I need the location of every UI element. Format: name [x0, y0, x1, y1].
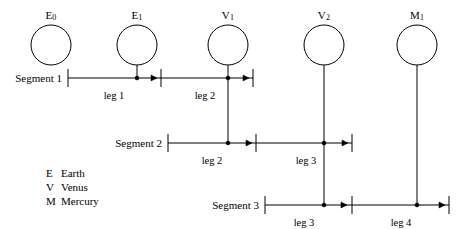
segment-1-arrowhead-1 — [243, 75, 249, 81]
node-label-E0: E0 — [45, 9, 56, 21]
segment-3-label: Segment 3 — [0, 199, 263, 211]
node-label-subscript: 1 — [420, 13, 424, 22]
trajectory-diagram: E0E1V1V2M1Segment 1leg 1leg 2Segment 2le… — [0, 0, 468, 229]
legend-key: M — [46, 194, 61, 208]
segment-3-leg-label-0: leg 3 — [294, 217, 315, 228]
node-label-V2: V2 — [318, 9, 330, 21]
node-label-E1: E1 — [131, 9, 142, 21]
segment-1-node-dot-1 — [226, 76, 230, 80]
legend-item-m: MMercury — [46, 194, 99, 208]
segment-3-leg-label-1: leg 4 — [391, 217, 412, 228]
segment-3-node-dot-1 — [415, 203, 419, 207]
segment-3-node-dot-0 — [322, 203, 326, 207]
planet-circle-M1 — [397, 25, 437, 65]
segment-2-arrowhead-1 — [342, 140, 348, 146]
legend-name: Venus — [61, 180, 88, 194]
node-label-letter: E — [45, 9, 52, 21]
segment-1-label: Segment 1 — [0, 72, 66, 84]
segment-1-leg-label-0: leg 1 — [104, 90, 125, 101]
segment-1-leg-label-1: leg 2 — [195, 90, 216, 101]
segment-2-node-dot-1 — [322, 141, 326, 145]
node-label-subscript: 2 — [326, 13, 330, 22]
segment-2-arrowhead-0 — [246, 140, 252, 146]
node-label-letter: E — [131, 9, 138, 21]
legend-name: Mercury — [61, 194, 99, 208]
segment-1-arrowhead-0 — [151, 75, 157, 81]
node-label-subscript: 1 — [230, 13, 234, 22]
legend-key: E — [46, 166, 61, 180]
segment-2-leg-label-1: leg 3 — [296, 155, 317, 166]
node-label-letter: M — [410, 9, 420, 21]
planet-circle-E1 — [117, 25, 157, 65]
node-label-subscript: 1 — [138, 13, 142, 22]
node-label-letter: V — [318, 9, 326, 21]
segment-2-node-dot-0 — [226, 141, 230, 145]
planet-circle-V1 — [208, 25, 248, 65]
segment-1-node-dot-0 — [135, 76, 139, 80]
node-label-letter: V — [222, 9, 230, 21]
node-label-subscript: 0 — [52, 13, 56, 22]
legend-name: Earth — [61, 166, 85, 180]
legend-item-v: VVenus — [46, 180, 99, 194]
segment-2-label: Segment 2 — [0, 137, 166, 149]
planet-circle-E0 — [31, 25, 71, 65]
segment-3-arrowhead-1 — [439, 202, 445, 208]
legend: EEarthVVenusMMercury — [46, 166, 99, 208]
legend-item-e: EEarth — [46, 166, 99, 180]
node-label-V1: V1 — [222, 9, 234, 21]
legend-key: V — [46, 180, 61, 194]
segment-2-leg-label-0: leg 2 — [202, 155, 223, 166]
planet-circle-V2 — [304, 25, 344, 65]
segment-3-arrowhead-0 — [341, 202, 347, 208]
node-label-M1: M1 — [410, 9, 424, 21]
